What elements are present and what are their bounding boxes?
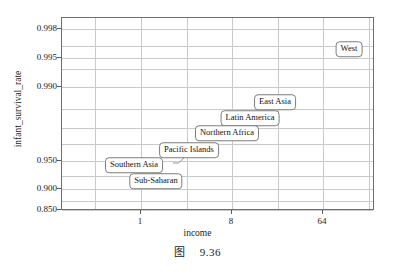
- data-point-label: Northern Africa: [195, 125, 259, 141]
- data-point-label: West: [336, 41, 363, 57]
- gridline-horizontal: [62, 87, 373, 88]
- figure-container: infant_survival_rate 0.9980.9950.9900.95…: [0, 0, 395, 273]
- y-tick-label: 0.990: [37, 82, 57, 91]
- x-tick-label: 8: [229, 216, 234, 226]
- plot-area: WestEast AsiaLatin AmericaNorthern Afric…: [61, 17, 374, 210]
- y-tick-label: 0.900: [37, 184, 57, 193]
- data-point-label: Latin America: [221, 110, 280, 126]
- caption-number: 9.36: [200, 246, 221, 258]
- gridline-horizontal: [62, 58, 373, 59]
- gridline-horizontal: [62, 69, 373, 70]
- gridline-horizontal: [62, 46, 373, 47]
- x-axis-title: income: [0, 228, 395, 238]
- gridline-horizontal: [62, 109, 373, 110]
- x-tick-mark: [140, 210, 141, 214]
- y-tick-label: 0.950: [37, 156, 57, 165]
- x-tick-mark: [231, 210, 232, 214]
- data-point-label: Sub-Saharan: [129, 173, 182, 189]
- y-tick-label: 0.995: [37, 53, 57, 62]
- gridline-horizontal: [62, 210, 373, 211]
- gridline-vertical: [369, 18, 370, 209]
- gridline-horizontal: [62, 29, 373, 30]
- data-point-label: Southern Asia: [105, 157, 163, 173]
- x-tick-label: 64: [318, 216, 327, 226]
- y-axis-title: infant_survival_rate: [13, 29, 23, 189]
- gridline-vertical: [323, 18, 324, 209]
- figure-caption: 图9.36: [0, 246, 395, 259]
- x-tick-mark: [322, 210, 323, 214]
- y-tick-label: 0.850: [37, 205, 57, 214]
- gridline-horizontal: [62, 201, 373, 202]
- gridline-vertical: [95, 18, 96, 209]
- caption-mark: 图: [174, 246, 186, 258]
- label-leader-line: [173, 158, 185, 165]
- gridline-horizontal: [62, 189, 373, 190]
- gridline-horizontal: [62, 176, 373, 177]
- x-tick-label: 1: [138, 216, 143, 226]
- gridline-vertical: [187, 18, 188, 209]
- data-point-label: East Asia: [254, 94, 296, 110]
- data-point-label: Pacific Islands: [159, 142, 219, 158]
- y-tick-label: 0.998: [37, 24, 57, 33]
